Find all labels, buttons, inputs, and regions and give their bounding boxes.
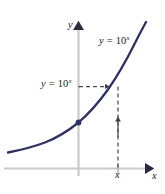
curve-equation-equals: = [104,35,116,46]
exponential-graph-figure: y = 10x y = 10x y x x [0,0,165,194]
curve-equation-exponent: x [127,34,130,41]
graph-canvas [0,0,165,194]
y-axis-label: y [68,20,73,31]
value-equation-equals: = [46,78,58,89]
value-equation-exponent: x [69,77,72,84]
value-equation-label: y = 10x [41,79,72,90]
x-axis-label: x [152,171,157,182]
value-equation-base: 10 [58,78,69,89]
curve-equation-label: y = 10x [99,36,130,47]
x-tick-label: x [115,170,120,181]
y-intercept-point [76,120,82,126]
curve-equation-base: 10 [116,35,127,46]
